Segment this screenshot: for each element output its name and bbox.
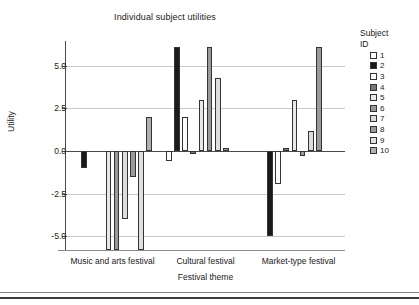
legend-swatch-icon-6 [370, 105, 377, 112]
bar-group1-subject10 [146, 117, 152, 151]
bar-group1-subject8 [130, 151, 136, 177]
bar-group3-subject2 [267, 151, 273, 236]
legend-swatch-icon-3 [370, 73, 377, 80]
y-tick-label: 2.5 [54, 103, 66, 113]
legend-label-4: 4 [380, 83, 384, 92]
legend-label-7: 7 [380, 114, 384, 123]
y-tick-label: -5.0 [51, 231, 66, 241]
legend-item-5[interactable]: 5 [356, 92, 418, 103]
legend-item-1[interactable]: 1 [356, 50, 418, 61]
y-tick-label: 0.0 [54, 146, 66, 156]
legend-item-2[interactable]: 2 [356, 61, 418, 72]
bar-group3-subject6 [300, 151, 306, 156]
x-category-label-1: Music and arts festival [66, 256, 159, 266]
chart-legend: Subject ID 12345678910 [356, 28, 418, 156]
gridline-2.5 [66, 108, 345, 109]
y-tick-label: -2.5 [51, 189, 66, 199]
legend-swatch-icon-1 [370, 52, 377, 59]
bar-group2-subject7 [215, 78, 221, 151]
chart-figure: Individual subject utilities Utility Sub… [0, 0, 419, 305]
legend-swatch-icon-8 [370, 126, 377, 133]
bar-group3-subject7 [308, 131, 314, 151]
bar-group2-subject2 [174, 47, 180, 151]
legend-label-1: 1 [380, 51, 384, 60]
legend-swatch-icon-10 [370, 147, 377, 154]
bar-group2-subject1 [166, 151, 172, 161]
footer-rule-bottom [0, 297, 419, 299]
bar-group2-subject5 [199, 100, 205, 151]
legend-label-10: 10 [380, 146, 389, 155]
legend-label-2: 2 [380, 61, 384, 70]
legend-label-8: 8 [380, 125, 384, 134]
bar-group1-subject7 [122, 151, 128, 219]
bar-group1-subject2 [81, 151, 87, 168]
legend-title-line1: Subject [356, 28, 418, 39]
legend-item-9[interactable]: 9 [356, 135, 418, 146]
legend-title-line2: ID [356, 39, 418, 50]
legend-label-6: 6 [380, 104, 384, 113]
plot-bottom-rule [58, 250, 345, 251]
bar-group1-subject6 [114, 151, 120, 250]
bar-group2-subject4 [190, 151, 196, 154]
legend-label-5: 5 [380, 93, 384, 102]
legend-swatch-icon-9 [370, 137, 377, 144]
bar-group3-subject5 [292, 100, 298, 151]
bar-group2-subject8 [223, 148, 229, 151]
bar-group3-subject3 [275, 151, 281, 183]
legend-item-6[interactable]: 6 [356, 103, 418, 114]
x-category-label-2: Cultural festival [159, 256, 252, 266]
x-category-label-3: Market-type festival [252, 256, 345, 266]
legend-item-10[interactable]: 10 [356, 145, 418, 156]
footer-rule-top [0, 292, 419, 293]
bar-group3-subject4 [283, 148, 289, 151]
legend-rows: 12345678910 [356, 50, 418, 156]
legend-swatch-icon-4 [370, 84, 377, 91]
legend-item-8[interactable]: 8 [356, 124, 418, 135]
legend-item-7[interactable]: 7 [356, 114, 418, 125]
legend-swatch-icon-5 [370, 94, 377, 101]
plot-area [66, 42, 345, 250]
legend-swatch-icon-7 [370, 115, 377, 122]
y-tick-label: 5.0 [54, 61, 66, 71]
legend-label-3: 3 [380, 72, 384, 81]
y-axis-title: Utility [6, 111, 16, 132]
gridline-5.0 [66, 66, 345, 67]
bar-group2-subject6 [207, 47, 213, 151]
legend-label-9: 9 [380, 136, 384, 145]
chart-title: Individual subject utilities [0, 12, 330, 22]
bar-group3-subject8 [316, 47, 322, 151]
legend-item-3[interactable]: 3 [356, 71, 418, 82]
bar-group1-subject9 [138, 151, 144, 250]
legend-item-4[interactable]: 4 [356, 82, 418, 93]
bar-group2-subject3 [182, 117, 188, 151]
bar-group1-subject5 [106, 151, 112, 250]
x-axis-title: Festival theme [66, 272, 345, 282]
legend-swatch-icon-2 [370, 62, 377, 69]
